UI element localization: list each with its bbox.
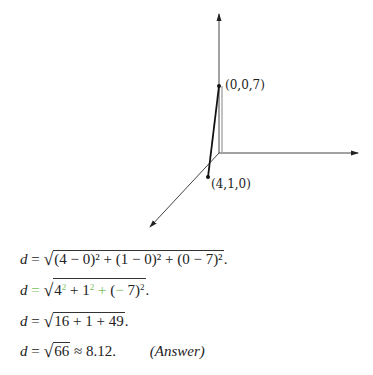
variable-d: d bbox=[20, 313, 28, 329]
radicand: 42 + 12 + (− 7)2 bbox=[53, 278, 145, 299]
variable-d: d bbox=[20, 282, 28, 298]
equation-line-4: d = √66 ≈ 8.12. (Answer) bbox=[20, 339, 205, 361]
variable-d: d bbox=[20, 251, 28, 267]
radical-sign-icon: √ bbox=[43, 280, 53, 300]
radical-sign-icon: √ bbox=[43, 341, 53, 361]
period: . bbox=[146, 282, 150, 298]
radicand: 16 + 1 + 49 bbox=[53, 312, 124, 330]
distance-segment bbox=[208, 86, 219, 177]
equals-sign: = bbox=[31, 251, 39, 267]
radical-sign-icon: √ bbox=[43, 249, 53, 269]
period: . bbox=[125, 313, 129, 329]
answer-note: (Answer) bbox=[150, 343, 205, 359]
radicand: (4 − 0)² + (1 − 0)² + (0 − 7)² bbox=[53, 250, 223, 268]
variable-d: d bbox=[20, 343, 28, 359]
point-marker-0-0-7 bbox=[217, 84, 221, 88]
square-root: √16 + 1 + 49 bbox=[43, 309, 124, 332]
radicand: 66 bbox=[53, 342, 70, 360]
equation-line-3: d = √16 + 1 + 49. bbox=[20, 309, 129, 331]
y-axis bbox=[150, 153, 219, 227]
equals-sign: = bbox=[31, 343, 39, 359]
equals-sign: = bbox=[31, 313, 39, 329]
equation-line-2: d = √42 + 12 + (− 7)2. bbox=[20, 278, 149, 300]
3d-coordinate-figure bbox=[0, 0, 373, 240]
square-root: √66 bbox=[43, 339, 70, 362]
point-label-4-1-0: (4,1,0) bbox=[211, 177, 251, 191]
square-root: √42 + 12 + (− 7)2 bbox=[43, 278, 145, 301]
point-marker-4-1-0 bbox=[206, 175, 210, 179]
equals-sign: = bbox=[31, 282, 39, 298]
point-label-0-0-7: (0,0,7) bbox=[225, 78, 265, 92]
equation-line-1: d = √(4 − 0)² + (1 − 0)² + (0 − 7)². bbox=[20, 247, 227, 269]
radical-sign-icon: √ bbox=[43, 311, 53, 331]
square-root: √(4 − 0)² + (1 − 0)² + (0 − 7)² bbox=[43, 247, 223, 270]
period: . bbox=[224, 251, 228, 267]
approximation: ≈ 8.12. bbox=[74, 343, 116, 359]
